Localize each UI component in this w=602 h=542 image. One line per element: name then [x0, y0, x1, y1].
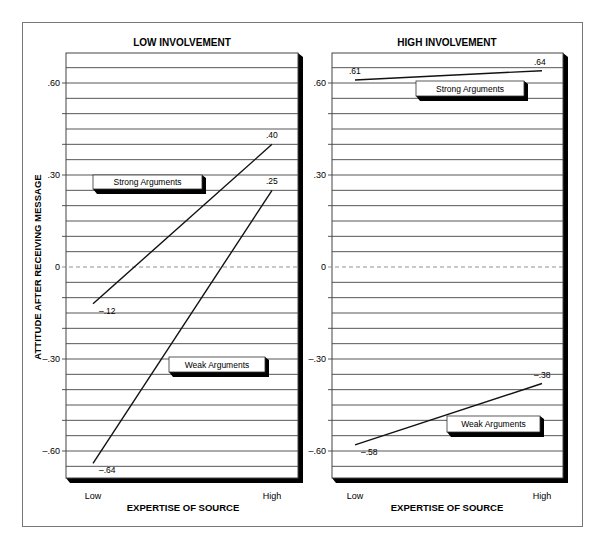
y-tick-label: –.30 [42, 354, 60, 364]
x-tick-high: High [263, 491, 282, 501]
panel-title: HIGH INVOLVEMENT [397, 37, 496, 48]
y-tick-label: –.30 [308, 354, 326, 364]
y-tick-label: –.60 [308, 446, 326, 456]
data-point-label: .61 [349, 66, 361, 76]
x-tick-low: Low [85, 491, 102, 501]
data-point-label: .64 [534, 57, 546, 67]
legend-weak-arguments: Weak Arguments [169, 357, 269, 377]
legend-strong-arguments: Strong Arguments [416, 81, 528, 101]
data-point-label: –.38 [534, 370, 551, 380]
y-tick-label: –.60 [42, 446, 60, 456]
y-tick-label: .60 [47, 78, 60, 88]
y-axis-title: ATTITUDE AFTER RECEIVING MESSAGE [32, 174, 43, 359]
data-point-label: .40 [266, 130, 278, 140]
plot-background [66, 53, 298, 478]
chart-canvas: LOW INVOLVEMENT .60.300–.30–.60Strong Ar… [0, 0, 602, 542]
data-point-label: –.58 [361, 447, 378, 457]
x-tick-high: High [533, 491, 552, 501]
legend-weak-arguments: Weak Arguments [447, 416, 544, 437]
y-tick-label: 0 [55, 262, 60, 272]
legend-strong-arguments: Strong Arguments [93, 175, 206, 194]
y-tick-label: .30 [313, 170, 326, 180]
panel-low-involvement: LOW INVOLVEMENT .60.300–.30–.60Strong Ar… [32, 37, 303, 513]
legend-label: Weak Arguments [461, 419, 526, 429]
x-axis-title: EXPERTISE OF SOURCE [127, 502, 239, 513]
x-axis-title: EXPERTISE OF SOURCE [391, 502, 503, 513]
legend-label: Weak Arguments [185, 360, 250, 370]
data-point-label: –.64 [99, 465, 116, 475]
data-point-label: .25 [266, 176, 278, 186]
legend-label: Strong Arguments [113, 177, 181, 187]
y-tick-label: .30 [47, 170, 60, 180]
legend-label: Strong Arguments [436, 84, 504, 94]
plot-area: .60.300–.30–.60Strong ArgumentsWeak Argu… [42, 53, 303, 483]
x-tick-low: Low [347, 491, 364, 501]
y-tick-label: 0 [321, 262, 326, 272]
panel-title: LOW INVOLVEMENT [133, 37, 231, 48]
panel-high-involvement: HIGH INVOLVEMENT .60.300–.30–.60Strong A… [308, 37, 568, 513]
plot-area: .60.300–.30–.60Strong ArgumentsWeak Argu… [308, 53, 568, 483]
y-tick-label: .60 [313, 78, 326, 88]
data-point-label: –.12 [99, 306, 116, 316]
